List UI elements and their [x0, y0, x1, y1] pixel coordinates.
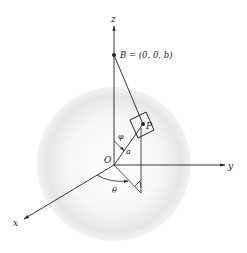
point-b — [112, 53, 116, 57]
point-b-label: B = (0, 0, b) — [119, 50, 172, 60]
z-axis-label: z — [110, 14, 116, 24]
x-axis-label: x — [13, 218, 18, 228]
phi-label: φ — [118, 132, 124, 141]
sphere-diagram: z y x B = (0, 0, b) P O φ a θ — [0, 0, 247, 253]
theta-label: θ — [112, 186, 117, 195]
point-p-label: P — [145, 121, 153, 131]
origin-label: O — [104, 155, 112, 165]
radius-a-label: a — [126, 147, 131, 156]
y-axis-label: y — [227, 161, 234, 171]
point-p — [141, 122, 145, 126]
